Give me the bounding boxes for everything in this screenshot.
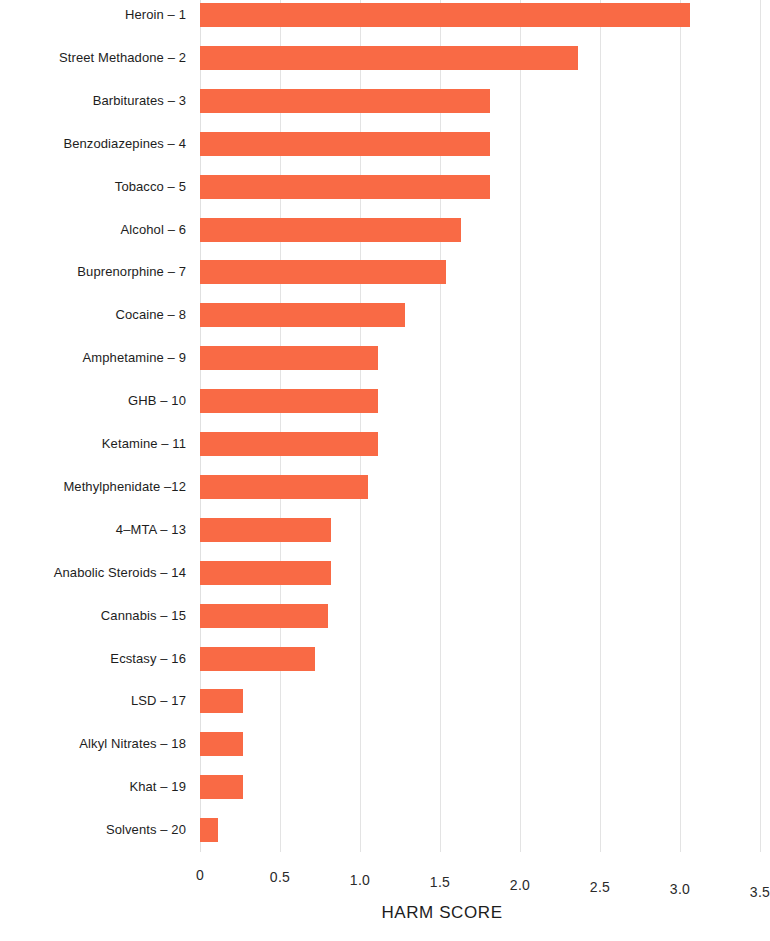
bar-row[interactable] [200,775,760,799]
category-label: Anabolic Steroids – 14 [0,565,186,581]
gridline-3.0 [680,0,681,852]
bar[interactable] [200,260,446,284]
bar[interactable] [200,389,378,413]
bar-row[interactable] [200,475,760,499]
category-label: Ketamine – 11 [0,436,186,452]
bar-row[interactable] [200,132,760,156]
gridline-1.0 [360,0,361,852]
category-label: Alkyl Nitrates – 18 [0,736,186,752]
bar-row[interactable] [200,303,760,327]
category-label: GHB – 10 [0,393,186,409]
bar[interactable] [200,3,690,27]
bar-row[interactable] [200,218,760,242]
category-label: Ecstasy – 16 [0,651,186,667]
bar[interactable] [200,561,331,585]
gridline-2.0 [520,0,521,852]
x-tick-label: 1.5 [430,874,450,890]
bar-row[interactable] [200,89,760,113]
category-label: Cocaine – 8 [0,307,186,323]
bar-row[interactable] [200,604,760,628]
bar[interactable] [200,89,490,113]
gridline-1.5 [440,0,441,852]
category-label: Street Methadone – 2 [0,50,186,66]
category-label: LSD – 17 [0,693,186,709]
category-label: 4–MTA – 13 [0,522,186,538]
x-tick-label: 2.0 [510,877,530,893]
category-label: Tobacco – 5 [0,179,186,195]
x-tick-label: 2.5 [590,879,610,895]
category-label: Buprenorphine – 7 [0,264,186,280]
bar[interactable] [200,303,405,327]
gridline-0 [200,0,201,852]
x-tick-label: 3.0 [670,881,690,897]
gridline-3.5 [760,0,761,852]
category-label: Khat – 19 [0,779,186,795]
bar-row[interactable] [200,175,760,199]
bar-row[interactable] [200,346,760,370]
bar-row[interactable] [200,46,760,70]
bar-row[interactable] [200,389,760,413]
plot-area [200,0,760,852]
bar[interactable] [200,175,490,199]
bar-row[interactable] [200,518,760,542]
gridline-0.5 [280,0,281,852]
x-tick-label: 0.5 [270,869,290,885]
x-tick-label: 1.0 [350,872,370,888]
category-label: Amphetamine – 9 [0,350,186,366]
x-tick-label: 3.5 [750,884,770,900]
category-label: Heroin – 1 [0,7,186,23]
bar-row[interactable] [200,689,760,713]
bar[interactable] [200,475,368,499]
category-label: Solvents – 20 [0,822,186,838]
bar-row[interactable] [200,818,760,842]
category-label: Alcohol – 6 [0,222,186,238]
bar[interactable] [200,775,243,799]
bar-row[interactable] [200,561,760,585]
bar-row[interactable] [200,647,760,671]
bar[interactable] [200,818,218,842]
bar-row[interactable] [200,3,760,27]
category-label: Methylphenidate –12 [0,479,186,495]
x-axis-title-text: HARM SCORE [381,903,502,923]
bar[interactable] [200,132,490,156]
x-axis-tick-labels: 00.51.01.52.02.53.03.5 [0,855,764,900]
bar[interactable] [200,647,315,671]
bar-row[interactable] [200,732,760,756]
bar-row[interactable] [200,260,760,284]
x-axis-title: HARM SCORE [0,903,764,923]
bar-row[interactable] [200,432,760,456]
category-label: Benzodiazepines – 4 [0,136,186,152]
gridline-2.5 [600,0,601,852]
bar[interactable] [200,346,378,370]
bar[interactable] [200,432,378,456]
category-axis-labels: Heroin – 1Street Methadone – 2Barbiturat… [0,0,186,852]
bar[interactable] [200,46,578,70]
bar[interactable] [200,604,328,628]
category-label: Barbiturates – 3 [0,93,186,109]
x-tick-label: 0 [196,867,204,883]
bar[interactable] [200,518,331,542]
bar[interactable] [200,218,461,242]
bar[interactable] [200,732,243,756]
bar[interactable] [200,689,243,713]
category-label: Cannabis – 15 [0,608,186,624]
